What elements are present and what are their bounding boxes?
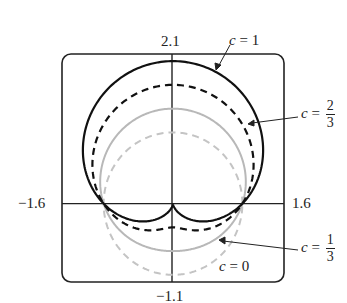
arrowhead-c23: [248, 120, 254, 126]
denominator: 3: [327, 115, 334, 130]
eq-text: =: [308, 105, 324, 121]
legend-label-c23: c = 23: [301, 99, 335, 130]
y-min-label: −1.1: [156, 289, 183, 303]
x-min-label: −1.6: [18, 196, 45, 211]
curve-c-2-3: [92, 85, 253, 230]
numerator: 1: [326, 233, 335, 249]
var-c: c: [301, 239, 308, 255]
var-c: c: [229, 32, 236, 48]
var-c: c: [219, 258, 226, 274]
curve-c-1: [83, 61, 263, 221]
y-max-label: 2.1: [161, 34, 180, 49]
legend-label-c1: c = 1: [229, 33, 259, 48]
eq-text: =: [308, 239, 324, 255]
eq-text: = 0: [226, 258, 249, 274]
fraction: 23: [326, 99, 335, 130]
arrow-c23: [252, 117, 298, 123]
var-c: c: [301, 105, 308, 121]
legend-label-c13: c = 13: [301, 233, 335, 264]
arrow-c1: [218, 45, 230, 67]
arrow-c13: [223, 241, 298, 250]
eq-text: = 1: [236, 32, 259, 48]
viewing-window-frame: [62, 54, 284, 282]
curve-c-1-3: [100, 109, 246, 252]
arrowhead-c13: [219, 237, 225, 244]
x-max-label: 1.6: [292, 196, 311, 211]
legend-label-c0: c = 0: [219, 259, 249, 274]
fraction: 13: [326, 233, 335, 264]
denominator: 3: [327, 249, 334, 264]
numerator: 2: [326, 99, 335, 115]
